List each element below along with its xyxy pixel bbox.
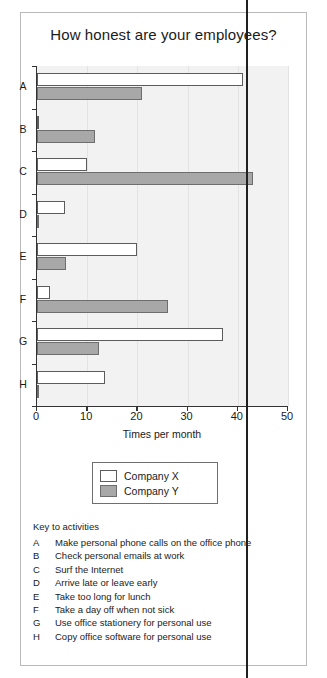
chart-legend: Company X Company Y bbox=[92, 462, 218, 504]
y-tick-label-G: G bbox=[15, 335, 31, 347]
key-item-text: Arrive late or leave early bbox=[55, 576, 295, 589]
key-item-letter: H bbox=[33, 630, 55, 643]
key-item-letter: F bbox=[33, 603, 55, 616]
scan-artifact-line bbox=[246, 0, 248, 678]
key-item-letter: D bbox=[33, 576, 55, 589]
key-item-h: HCopy office software for personal use bbox=[33, 630, 295, 643]
y-tick-D bbox=[32, 194, 37, 195]
bar-D-company-x bbox=[37, 201, 65, 214]
key-item-text: Use office stationery for personal use bbox=[55, 616, 295, 629]
y-tick-label-H: H bbox=[15, 378, 31, 390]
bar-group-G: G bbox=[37, 321, 288, 364]
bar-C-company-x bbox=[37, 158, 87, 171]
x-tick-label-10: 10 bbox=[71, 410, 101, 422]
x-tick-10 bbox=[86, 406, 87, 411]
y-tick-C bbox=[32, 151, 37, 152]
key-item-letter: A bbox=[33, 536, 55, 549]
y-tick-label-E: E bbox=[15, 250, 31, 262]
bar-G-company-x bbox=[37, 328, 223, 341]
bar-group-A: A bbox=[37, 66, 288, 109]
key-item-text: Surf the Internet bbox=[55, 563, 295, 576]
key-item-text: Take a day off when not sick bbox=[55, 603, 295, 616]
key-item-letter: C bbox=[33, 563, 55, 576]
key-item-c: CSurf the Internet bbox=[33, 563, 295, 576]
gridline-x-50 bbox=[288, 66, 289, 406]
plot-area: ABCDEFGH bbox=[36, 66, 288, 406]
y-tick-label-C: C bbox=[15, 165, 31, 177]
bar-H-company-x bbox=[37, 371, 105, 384]
key-item-g: GUse office stationery for personal use bbox=[33, 616, 295, 629]
key-item-f: FTake a day off when not sick bbox=[33, 603, 295, 616]
legend-item-company-x: Company X bbox=[100, 468, 210, 483]
x-tick-50 bbox=[287, 406, 288, 411]
y-tick-label-B: B bbox=[15, 123, 31, 135]
x-tick-label-0: 0 bbox=[21, 410, 51, 422]
bar-H-company-y bbox=[37, 385, 39, 398]
legend-label-company-y: Company Y bbox=[124, 485, 179, 497]
bar-F-company-y bbox=[37, 300, 168, 313]
bar-E-company-y bbox=[37, 257, 66, 270]
key-title: Key to activities bbox=[33, 521, 295, 532]
bar-group-C: C bbox=[37, 151, 288, 194]
legend-item-company-y: Company Y bbox=[100, 483, 210, 498]
key-item-d: DArrive late or leave early bbox=[33, 576, 295, 589]
key-to-activities: Key to activities AMake personal phone c… bbox=[33, 521, 295, 643]
bar-G-company-y bbox=[37, 342, 99, 355]
bar-group-H: H bbox=[37, 364, 288, 407]
y-tick-H bbox=[32, 364, 37, 365]
bar-C-company-y bbox=[37, 172, 253, 185]
legend-swatch-company-x bbox=[100, 470, 117, 482]
key-item-letter: B bbox=[33, 549, 55, 562]
bar-B-company-y bbox=[37, 130, 95, 143]
legend-swatch-company-y bbox=[100, 485, 117, 497]
bar-group-E: E bbox=[37, 236, 288, 279]
bar-F-company-x bbox=[37, 286, 50, 299]
chart-title: How honest are your employees? bbox=[20, 26, 307, 43]
x-tick-20 bbox=[136, 406, 137, 411]
key-item-text: Copy office software for personal use bbox=[55, 630, 295, 643]
key-item-text: Take too long for lunch bbox=[55, 590, 295, 603]
y-tick-B bbox=[32, 109, 37, 110]
legend-label-company-x: Company X bbox=[124, 470, 179, 482]
key-item-text: Check personal emails at work bbox=[55, 549, 295, 562]
key-item-letter: G bbox=[33, 616, 55, 629]
y-tick-G bbox=[32, 321, 37, 322]
key-item-a: AMake personal phone calls on the office… bbox=[33, 536, 295, 549]
bar-group-F: F bbox=[37, 279, 288, 322]
x-axis-line bbox=[36, 406, 288, 407]
bar-A-company-x bbox=[37, 73, 243, 86]
x-axis-label: Times per month bbox=[36, 428, 288, 440]
x-tick-40 bbox=[237, 406, 238, 411]
y-tick-label-A: A bbox=[15, 80, 31, 92]
key-item-b: BCheck personal emails at work bbox=[33, 549, 295, 562]
bar-A-company-y bbox=[37, 87, 142, 100]
key-item-letter: E bbox=[33, 590, 55, 603]
bar-E-company-x bbox=[37, 243, 137, 256]
key-list: AMake personal phone calls on the office… bbox=[33, 536, 295, 643]
y-tick-E bbox=[32, 236, 37, 237]
x-tick-label-50: 50 bbox=[272, 410, 302, 422]
bar-B-company-x bbox=[37, 116, 39, 129]
key-item-text: Make personal phone calls on the office … bbox=[55, 536, 295, 549]
y-tick-A bbox=[32, 66, 37, 67]
bar-group-D: D bbox=[37, 194, 288, 237]
key-item-e: ETake too long for lunch bbox=[33, 590, 295, 603]
y-tick-F bbox=[32, 279, 37, 280]
bar-D-company-y bbox=[37, 215, 39, 228]
x-tick-label-20: 20 bbox=[121, 410, 151, 422]
x-tick-30 bbox=[187, 406, 188, 411]
y-tick-label-F: F bbox=[15, 293, 31, 305]
bar-group-B: B bbox=[37, 109, 288, 152]
x-tick-label-30: 30 bbox=[172, 410, 202, 422]
y-tick-label-D: D bbox=[15, 208, 31, 220]
x-tick-0 bbox=[36, 406, 37, 411]
